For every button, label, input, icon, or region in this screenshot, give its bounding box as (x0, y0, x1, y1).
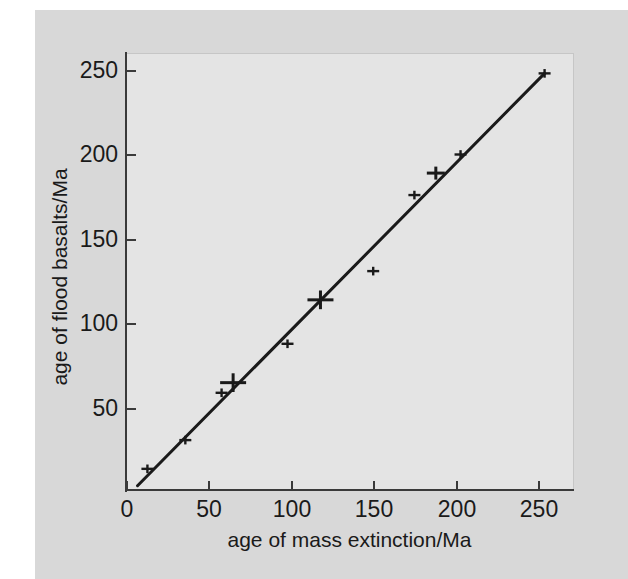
data-point-marker (408, 191, 420, 200)
data-layer (0, 0, 628, 579)
regression-line (138, 73, 545, 485)
fit-line (138, 73, 545, 485)
data-point-marker (455, 150, 467, 159)
data-point-marker (220, 373, 246, 392)
data-point-marker (282, 339, 294, 348)
figure: 250 200 150 100 50 0 50 100 150 200 250 … (0, 0, 628, 579)
data-point-marker (367, 267, 379, 276)
